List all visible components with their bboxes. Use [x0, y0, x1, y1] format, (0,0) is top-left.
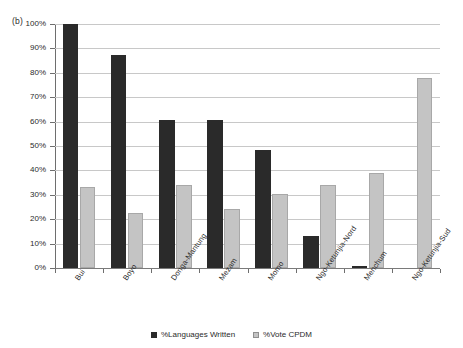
gridline-100	[55, 24, 440, 25]
legend-entry-1: %Languages Written	[151, 330, 235, 339]
bar-menchum-series-1	[352, 266, 368, 268]
bar-mezam-series-1	[207, 120, 223, 268]
bar-donga-mantung-series-1	[159, 120, 175, 268]
legend-label: %Languages Written	[161, 331, 235, 340]
y-tick-label: 0%	[10, 264, 46, 272]
x-tick-mark	[103, 269, 104, 273]
legend-swatch-icon	[253, 332, 259, 338]
y-tick-label: 60%	[10, 118, 46, 126]
x-tick-mark	[248, 269, 249, 273]
y-tick-label: 70%	[10, 93, 46, 101]
bar-bui-series-2	[80, 187, 96, 268]
y-tick-label: 50%	[10, 142, 46, 150]
legend-swatch-icon	[151, 332, 157, 338]
x-tick-mark	[296, 269, 297, 273]
bar-ngo-ketunjia-nord-series-1	[303, 236, 319, 268]
figure-panel-b: (b) 100%90%80%70%60%50%40%30%20%10%0% Bu…	[0, 0, 463, 348]
gridline-90	[55, 48, 440, 49]
y-tick-label: 90%	[10, 44, 46, 52]
y-tick-label: 100%	[10, 20, 46, 28]
legend-entry-2: %Vote CPDM	[253, 330, 312, 339]
x-axis-label-bui: Bui	[73, 268, 87, 282]
x-tick-mark	[151, 269, 152, 273]
bar-boyo-series-1	[111, 55, 127, 269]
bar-ngo-ketunjia-sud-series-2	[417, 78, 433, 268]
bar-momo-series-2	[272, 194, 288, 268]
x-tick-mark	[55, 269, 56, 273]
y-tick-label: 10%	[10, 240, 46, 248]
x-tick-mark	[344, 269, 345, 273]
legend: %Languages Written%Vote CPDM	[0, 330, 463, 340]
y-tick-label: 80%	[10, 69, 46, 77]
y-tick-label: 30%	[10, 191, 46, 199]
x-tick-mark	[199, 269, 200, 273]
legend-label: %Vote CPDM	[263, 331, 312, 340]
bar-boyo-series-2	[128, 213, 144, 268]
bar-momo-series-1	[255, 150, 271, 268]
bar-bui-series-1	[63, 24, 79, 268]
x-tick-mark	[392, 269, 393, 273]
plot-area	[55, 24, 440, 268]
y-tick-label: 40%	[10, 166, 46, 174]
y-tick-label: 20%	[10, 215, 46, 223]
x-tick-mark	[440, 269, 441, 273]
